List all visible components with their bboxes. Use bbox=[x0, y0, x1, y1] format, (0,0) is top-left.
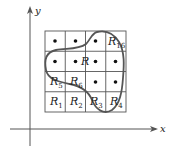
sample-point bbox=[114, 80, 118, 84]
cell-label-r4: R4 bbox=[109, 95, 123, 110]
sample-point bbox=[74, 60, 78, 64]
sample-point bbox=[114, 60, 118, 64]
sample-point bbox=[53, 39, 57, 43]
cell-label-r5: R5 bbox=[49, 75, 63, 90]
sample-point bbox=[53, 60, 57, 64]
sample-point bbox=[94, 80, 98, 84]
cell-label-r1: R1 bbox=[49, 95, 63, 110]
cell-labels: R1 R2 R3 R4 R5 R6 R16 bbox=[49, 35, 126, 110]
region-label: R bbox=[80, 55, 89, 68]
sample-point bbox=[94, 39, 98, 43]
cell-label-r6: R6 bbox=[69, 75, 83, 90]
cell-label-r3: R3 bbox=[89, 95, 103, 110]
sample-point bbox=[94, 60, 98, 64]
sample-point bbox=[74, 39, 78, 43]
x-axis: x bbox=[10, 123, 166, 134]
y-axis-label: y bbox=[34, 5, 41, 16]
y-axis: y bbox=[27, 5, 41, 146]
cell-label-r2: R2 bbox=[69, 95, 83, 110]
x-axis-label: x bbox=[160, 123, 166, 134]
diagram-canvas: y x R R1 R2 R3 R4 R5 R6 R bbox=[0, 0, 173, 154]
